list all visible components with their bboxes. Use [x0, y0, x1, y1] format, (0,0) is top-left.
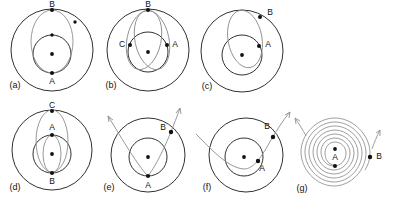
- point-a-label: A: [49, 76, 55, 86]
- point-a-marker: [333, 164, 337, 168]
- point-b-marker: [271, 135, 275, 139]
- central-body-marker: [50, 152, 54, 156]
- point-b-label: B: [267, 7, 273, 17]
- point-c-marker: [128, 43, 132, 47]
- panel-e: A B (e): [100, 102, 205, 200]
- panel-c-label: (c): [202, 81, 213, 91]
- panel-g-label: (g): [297, 183, 308, 193]
- point-b-marker: [258, 15, 262, 19]
- central-body-marker: [242, 155, 246, 159]
- point-a-label: A: [265, 39, 271, 49]
- orbit-node-marker: [73, 20, 76, 23]
- transfer-ellipse-outer: [36, 110, 68, 172]
- central-body-marker: [50, 52, 54, 56]
- inbound-lead-line: [295, 118, 306, 136]
- point-b-label: B: [145, 0, 151, 9]
- central-body-marker: [146, 50, 150, 54]
- panel-d: C A B (d): [4, 102, 104, 200]
- flyby-trajectory: [196, 112, 290, 169]
- point-b-label: B: [49, 0, 55, 9]
- panel-e-label: (e): [104, 182, 115, 192]
- outer-circle: [107, 9, 189, 91]
- panel-f: A B (f): [198, 102, 303, 200]
- point-b-label: B: [376, 151, 382, 161]
- panel-b-label: (b): [106, 80, 117, 90]
- panel-a-label: (a): [10, 80, 21, 90]
- central-body-marker: [240, 53, 244, 57]
- point-c-label: C: [119, 39, 125, 49]
- panel-f-label: (f): [203, 182, 212, 192]
- point-a-marker: [165, 43, 169, 47]
- panel-g: A B (g): [294, 102, 393, 200]
- point-b-marker: [169, 130, 173, 134]
- central-body-marker: [333, 147, 337, 151]
- orbit-node-marker: [50, 33, 53, 36]
- point-c-label: C: [49, 100, 55, 110]
- escape-trajectory-left: [108, 116, 148, 176]
- arrow-head-left: [108, 116, 113, 122]
- point-a-marker: [146, 174, 150, 178]
- outer-circle: [201, 10, 283, 92]
- point-a-label: A: [145, 180, 151, 190]
- point-b-label: B: [264, 121, 270, 131]
- central-body-marker: [146, 155, 150, 159]
- point-a-label: A: [49, 122, 55, 132]
- outer-circle: [209, 118, 283, 192]
- orbital-transfer-figure: B A (a) B A C (b): [0, 0, 393, 202]
- panel-b: B A C (b): [100, 2, 200, 100]
- panel-a: B A (a): [4, 2, 104, 100]
- point-a-marker: [257, 44, 261, 48]
- point-a-label: A: [332, 152, 338, 162]
- point-a-label: A: [172, 39, 178, 49]
- panel-c: B A (c): [196, 2, 296, 100]
- point-a-marker: [50, 133, 54, 137]
- point-a-marker: [50, 71, 54, 75]
- point-b-marker: [368, 155, 372, 159]
- panel-d-label: (d): [10, 182, 21, 192]
- point-a-label: A: [259, 163, 265, 173]
- point-b-label: B: [160, 122, 166, 132]
- point-b-label: B: [49, 176, 55, 186]
- point-b-marker: [50, 171, 54, 175]
